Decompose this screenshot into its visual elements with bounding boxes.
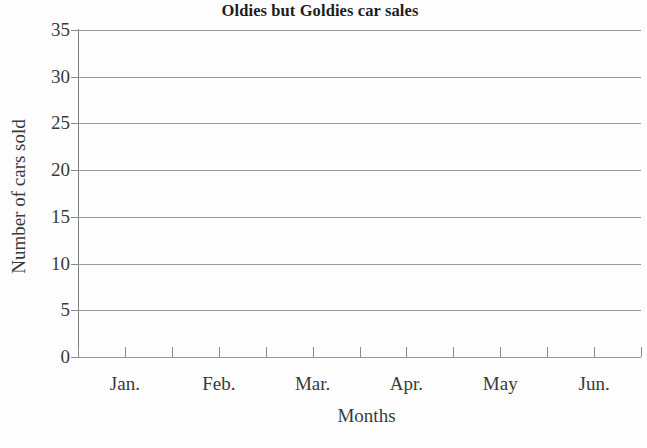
- gridline: [78, 357, 641, 358]
- y-axis-tick: [71, 310, 78, 311]
- x-axis-tick: [547, 347, 548, 357]
- y-axis-tick-label: 5: [26, 300, 70, 319]
- y-axis-tick: [71, 264, 78, 265]
- y-axis-tick-label: 10: [26, 254, 70, 273]
- gridline: [78, 77, 641, 78]
- y-axis-tick: [71, 77, 78, 78]
- y-axis-tick-label: 35: [26, 20, 70, 39]
- gridline: [78, 310, 641, 311]
- x-axis-tick: [500, 347, 501, 357]
- y-axis-tick-labels: 05101520253035: [22, 0, 70, 448]
- gridline: [78, 30, 641, 31]
- x-axis-tick: [453, 347, 454, 357]
- gridline: [78, 170, 641, 171]
- y-axis-tick: [71, 217, 78, 218]
- y-axis-tick: [71, 357, 78, 358]
- chart-title: Oldies but Goldies car sales: [0, 1, 640, 21]
- gridline: [78, 123, 641, 124]
- x-axis-tick: [641, 347, 642, 357]
- gridline: [78, 264, 641, 265]
- y-axis-tick: [71, 170, 78, 171]
- x-axis-tick: [219, 347, 220, 357]
- x-axis-tick-label: Mar.: [274, 373, 352, 394]
- y-axis-tick-label: 15: [26, 207, 70, 226]
- y-axis-tick: [71, 123, 78, 124]
- x-axis-tick: [172, 347, 173, 357]
- x-axis-tick-label: Apr.: [367, 373, 445, 394]
- x-axis-tick-label: May: [461, 373, 539, 394]
- x-axis-tick: [266, 347, 267, 357]
- x-axis-tick: [594, 347, 595, 357]
- x-axis-tick-label: Jun.: [555, 373, 633, 394]
- x-axis-tick: [78, 347, 79, 357]
- x-axis-tick-label: Jan.: [86, 373, 164, 394]
- x-axis-title: Months: [0, 405, 647, 427]
- y-axis-tick: [71, 30, 78, 31]
- plot-area: [78, 30, 641, 357]
- x-axis-tick: [360, 347, 361, 357]
- y-axis-tick-label: 25: [26, 113, 70, 132]
- y-axis-tick-label: 0: [26, 347, 70, 366]
- x-axis-tick: [313, 347, 314, 357]
- y-axis-tick-label: 20: [26, 160, 70, 179]
- x-axis-tick: [406, 347, 407, 357]
- chart-container: Oldies but Goldies car sales Number of c…: [0, 0, 647, 448]
- x-axis-tick: [125, 347, 126, 357]
- x-axis-tick-label: Feb.: [180, 373, 258, 394]
- x-axis-title-text: Months: [337, 405, 395, 426]
- y-axis-tick-label: 30: [26, 67, 70, 86]
- gridline: [78, 217, 641, 218]
